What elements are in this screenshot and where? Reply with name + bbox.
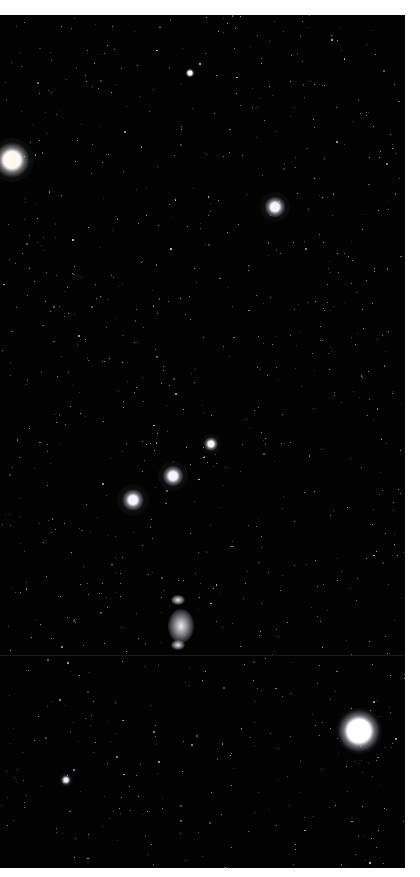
background-star bbox=[160, 642, 161, 643]
background-star bbox=[254, 745, 255, 746]
background-star bbox=[322, 722, 323, 723]
background-star bbox=[159, 27, 160, 28]
background-star bbox=[393, 502, 394, 503]
background-star bbox=[74, 314, 75, 315]
background-star bbox=[107, 721, 108, 722]
background-star bbox=[231, 847, 232, 848]
background-star bbox=[200, 223, 201, 224]
background-star bbox=[261, 603, 262, 604]
nebula-lower bbox=[171, 640, 185, 650]
background-star bbox=[362, 772, 363, 773]
background-star bbox=[5, 82, 6, 83]
background-star bbox=[122, 720, 123, 721]
background-star bbox=[77, 140, 78, 141]
background-star bbox=[398, 489, 399, 490]
background-star bbox=[312, 714, 313, 715]
background-star bbox=[119, 808, 120, 809]
background-star bbox=[223, 346, 224, 347]
star-alnitak bbox=[117, 484, 149, 516]
background-star bbox=[257, 367, 258, 368]
background-star bbox=[366, 112, 367, 113]
background-star bbox=[56, 114, 57, 115]
background-star bbox=[153, 89, 154, 90]
background-star bbox=[223, 156, 224, 157]
background-star bbox=[391, 747, 392, 748]
background-star bbox=[304, 830, 305, 831]
background-star bbox=[294, 107, 295, 108]
background-star bbox=[231, 546, 232, 547]
background-star bbox=[45, 301, 46, 302]
background-star bbox=[287, 622, 288, 623]
background-star bbox=[218, 200, 219, 201]
background-star bbox=[111, 92, 112, 93]
background-star bbox=[401, 598, 402, 599]
background-star bbox=[49, 191, 50, 192]
background-star bbox=[293, 864, 294, 865]
background-star bbox=[56, 828, 57, 829]
background-star bbox=[170, 248, 171, 249]
background-star bbox=[202, 680, 203, 681]
background-star bbox=[61, 195, 62, 196]
background-star bbox=[14, 777, 15, 778]
background-star bbox=[115, 216, 116, 217]
background-star bbox=[152, 572, 153, 573]
background-star bbox=[202, 856, 203, 857]
background-star bbox=[313, 816, 314, 817]
background-star bbox=[399, 178, 400, 179]
background-star bbox=[42, 325, 43, 326]
background-star bbox=[122, 362, 123, 363]
background-star bbox=[157, 313, 158, 314]
background-star bbox=[208, 244, 209, 245]
background-star bbox=[161, 577, 162, 578]
background-star bbox=[233, 337, 234, 338]
background-star bbox=[390, 712, 391, 713]
background-star bbox=[85, 416, 86, 417]
background-star bbox=[263, 440, 264, 441]
background-star bbox=[56, 832, 57, 833]
background-star bbox=[54, 414, 55, 415]
background-star bbox=[248, 525, 249, 526]
background-star bbox=[351, 241, 352, 242]
background-star bbox=[198, 552, 199, 553]
background-star bbox=[116, 756, 118, 758]
background-star bbox=[403, 821, 404, 822]
background-star bbox=[260, 98, 261, 99]
background-star bbox=[299, 792, 300, 793]
background-star bbox=[379, 157, 380, 158]
background-star bbox=[219, 278, 220, 279]
background-star bbox=[295, 167, 296, 168]
background-star bbox=[15, 592, 16, 593]
background-star bbox=[321, 769, 322, 770]
background-star bbox=[252, 88, 253, 89]
background-star bbox=[315, 560, 316, 561]
background-star bbox=[102, 162, 103, 163]
background-star bbox=[110, 598, 111, 599]
background-star bbox=[294, 565, 295, 566]
background-star bbox=[136, 189, 137, 190]
background-star bbox=[198, 609, 199, 610]
background-star bbox=[141, 146, 142, 147]
background-star bbox=[158, 664, 159, 665]
background-star bbox=[9, 259, 10, 260]
background-star bbox=[91, 306, 92, 307]
background-star bbox=[200, 583, 201, 584]
background-star bbox=[240, 471, 241, 472]
background-star bbox=[29, 235, 30, 236]
background-star bbox=[16, 26, 17, 27]
background-star bbox=[78, 335, 79, 336]
background-star bbox=[235, 28, 236, 29]
background-star bbox=[335, 691, 336, 692]
background-star bbox=[103, 198, 104, 199]
background-star bbox=[401, 403, 402, 404]
background-star bbox=[298, 304, 299, 305]
background-star bbox=[382, 490, 383, 491]
background-star bbox=[404, 674, 405, 675]
background-star bbox=[162, 798, 163, 799]
background-star bbox=[293, 242, 294, 243]
background-star bbox=[395, 193, 396, 194]
background-star bbox=[33, 124, 34, 125]
background-star bbox=[161, 383, 162, 384]
background-star bbox=[213, 588, 214, 589]
background-star bbox=[369, 157, 370, 158]
background-star bbox=[120, 573, 121, 574]
